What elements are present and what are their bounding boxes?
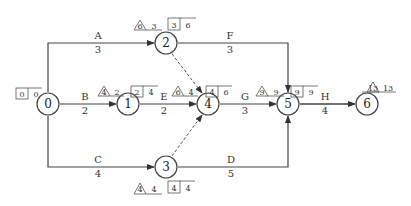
node-6-tri-value: 13: [368, 84, 378, 93]
node-4-tri-value: 6: [175, 88, 180, 97]
node-1-box-value: 2: [134, 88, 139, 97]
activity-c: C 4: [48, 116, 154, 179]
node-2-tri-side: 3: [151, 22, 156, 31]
node-1-tri-value: 4: [101, 88, 106, 97]
diagram-svg: A 3 B 2 C 4 E 2 F 3 G 3 D 5 H 4: [0, 0, 411, 206]
activity-c-label: C: [94, 154, 102, 165]
activity-f-label: F: [227, 30, 234, 41]
node-2-box-value: 3: [171, 21, 176, 30]
node-3-box-side: 4: [185, 184, 190, 193]
node-4-label: 4: [204, 97, 212, 111]
node-6-tri-side: 13: [383, 84, 393, 93]
activity-b-label: B: [81, 91, 88, 102]
network-diagram: A 3 B 2 C 4 E 2 F 3 G 3 D 5 H 4: [0, 0, 411, 206]
node-3: 3: [155, 156, 177, 178]
node-2-annotation: 6 3 3 6: [134, 18, 196, 31]
node-1-label: 1: [124, 97, 132, 111]
node-3-tri-side: 4: [151, 185, 156, 194]
node-4-box-value: 4: [209, 88, 214, 97]
activity-b-duration: 2: [82, 105, 88, 116]
node-1-tri-side: 2: [114, 88, 119, 97]
activity-a-duration: 3: [95, 44, 101, 55]
activity-d-duration: 5: [228, 168, 234, 179]
node-6: 6: [356, 93, 378, 115]
node-2-label: 2: [162, 36, 170, 50]
node-2: 2: [155, 32, 177, 54]
node-5-tri-value: 9: [259, 88, 264, 97]
node-6-label: 6: [363, 97, 371, 111]
activity-f-duration: 3: [227, 44, 233, 55]
node-3-box-value: 4: [171, 184, 176, 193]
activity-d-label: D: [227, 154, 235, 165]
activity-e-duration: 2: [161, 105, 167, 116]
activity-b: B 2: [60, 91, 116, 116]
node-4-box-side: 6: [223, 88, 228, 97]
node-1-box-side: 4: [148, 88, 153, 97]
node-5-box-value: 9: [294, 88, 299, 97]
node-5-tri-side: 9: [273, 88, 278, 97]
node-3-label: 3: [162, 160, 170, 174]
node-0-value: 0: [33, 90, 38, 99]
node-3-annotation: 4 4 4 4: [134, 181, 195, 194]
node-0-time-box: 0 0: [16, 88, 42, 99]
activity-g-duration: 3: [242, 105, 248, 116]
activity-a-label: A: [93, 30, 102, 41]
activity-h-label: H: [321, 91, 330, 102]
node-5-box-side: 9: [308, 88, 313, 97]
node-6-annotation: 13 13: [362, 82, 396, 93]
node-3-tri-value: 4: [137, 185, 142, 194]
node-0-label: 0: [44, 97, 52, 111]
node-0: 0: [37, 93, 59, 115]
activity-g-label: G: [241, 91, 249, 102]
activity-a: A 3: [48, 30, 154, 92]
activity-e-label: E: [160, 91, 167, 102]
activity-h-duration: 4: [322, 105, 328, 116]
node-4: 4: [197, 93, 219, 115]
activity-c-duration: 4: [95, 168, 101, 179]
node-5-label: 5: [284, 97, 292, 111]
node-4-tri-side: 4: [188, 88, 193, 97]
dummy-activity-3-4: [172, 115, 202, 156]
node-2-box-side: 6: [185, 21, 190, 30]
node-0-box-value: 0: [19, 90, 24, 99]
node-2-tri-value: 6: [137, 22, 142, 31]
